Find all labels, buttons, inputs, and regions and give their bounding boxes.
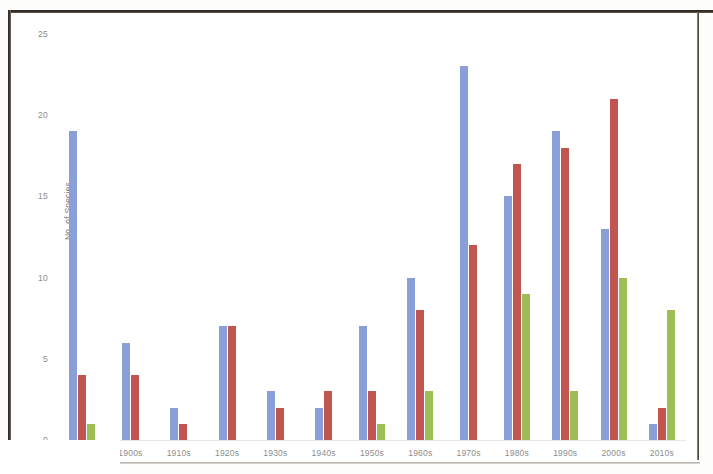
bar-group-1920s — [203, 34, 251, 440]
bar-1940s-series-2 — [324, 391, 332, 440]
page-edge-left — [8, 10, 11, 465]
page-corner-blank — [0, 440, 120, 474]
x-axis-baseline — [58, 440, 686, 441]
bar-group-1930s — [251, 34, 299, 440]
page-edge-right — [697, 12, 699, 460]
bar-1950s-series-3 — [377, 424, 385, 440]
bar-group-2000s — [589, 34, 637, 440]
bar-group-1960s — [396, 34, 444, 440]
bar-1990s-series-1 — [552, 131, 560, 440]
bar-1900s-series-1 — [122, 343, 130, 440]
bar-1900s-series-2 — [131, 375, 139, 440]
bar-1910s-series-1 — [170, 408, 178, 440]
bar-2000s-series-1 — [601, 229, 609, 440]
bar-1950s-series-2 — [368, 391, 376, 440]
bar-2000s-series-3 — [619, 278, 627, 440]
bar-group-1890s — [58, 34, 106, 440]
bar-group-1900s — [106, 34, 154, 440]
bar-chart: No. of Species 0510152025 1890s1900s1910… — [14, 14, 696, 460]
bar-group-1990s — [541, 34, 589, 440]
bar-1960s-series-1 — [407, 278, 415, 440]
bar-1890s-series-3 — [87, 424, 95, 440]
bar-1970s-series-2 — [469, 245, 477, 440]
bar-1910s-series-2 — [179, 424, 187, 440]
bar-1890s-series-1 — [69, 131, 77, 440]
bar-1980s-series-2 — [513, 164, 521, 440]
page-edge-top — [8, 10, 713, 13]
bar-group-1940s — [300, 34, 348, 440]
plot-area — [58, 34, 686, 440]
bar-1930s-series-1 — [267, 391, 275, 440]
scanned-page-frame: No. of Species 0510152025 1890s1900s1910… — [0, 0, 713, 474]
bar-1990s-series-2 — [561, 148, 569, 440]
bar-group-2010s — [638, 34, 686, 440]
y-axis-tick-10: 10 — [22, 273, 48, 283]
bar-1970s-series-1 — [460, 66, 468, 440]
bar-1950s-series-1 — [359, 326, 367, 440]
bar-2000s-series-2 — [610, 99, 618, 440]
bar-group-1970s — [444, 34, 492, 440]
bar-1980s-series-3 — [522, 294, 530, 440]
bar-group-1910s — [155, 34, 203, 440]
bar-2010s-series-2 — [658, 408, 666, 440]
bar-1930s-series-2 — [276, 408, 284, 440]
bar-1960s-series-3 — [425, 391, 433, 440]
bar-1940s-series-1 — [315, 408, 323, 440]
bar-2010s-series-1 — [649, 424, 657, 440]
bar-1990s-series-3 — [570, 391, 578, 440]
bar-group-1950s — [348, 34, 396, 440]
bar-1960s-series-2 — [416, 310, 424, 440]
bar-group-1980s — [493, 34, 541, 440]
y-axis-tick-20: 20 — [22, 110, 48, 120]
bar-1980s-series-1 — [504, 196, 512, 440]
bar-1920s-series-2 — [228, 326, 236, 440]
y-axis-tick-25: 25 — [22, 29, 48, 39]
bar-1890s-series-2 — [78, 375, 86, 440]
x-axis-tick-2010s: 2010s — [627, 448, 697, 458]
y-axis-tick-5: 5 — [22, 354, 48, 364]
y-axis-tick-15: 15 — [22, 191, 48, 201]
bar-2010s-series-3 — [667, 310, 675, 440]
bar-1920s-series-1 — [219, 326, 227, 440]
